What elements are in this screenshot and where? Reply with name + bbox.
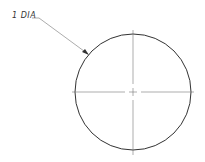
leader-line xyxy=(32,18,88,54)
circle-diagram xyxy=(0,0,205,162)
arrowhead-icon xyxy=(82,49,89,55)
dimension-label: 1 DIA xyxy=(12,11,36,20)
